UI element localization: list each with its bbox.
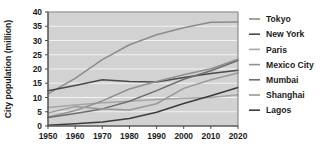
y-axis-label: City population (million) [3,20,13,118]
y-tick-label: 20 [33,64,43,74]
x-tick-label: 1950 [39,131,58,141]
x-tick-label: 2020 [229,131,248,141]
y-tick-label: 5 [37,107,42,117]
x-tick-label: 1970 [93,131,112,141]
y-tick-label: 35 [33,21,43,31]
y-tick-label: 40 [33,7,43,17]
legend-label-mumbai: Mumbai [266,75,298,85]
legend-label-paris: Paris [266,45,287,55]
legend-label-mexico-city: Mexico City [266,60,314,70]
x-tick-label: 1960 [66,131,85,141]
line-chart-figure: 0510152025303540 19501960197019801990200… [0,0,330,156]
legend-label-shanghai: Shanghai [266,90,305,100]
y-tick-label: 25 [33,50,43,60]
chart-canvas: 0510152025303540 19501960197019801990200… [0,0,330,156]
y-tick-label: 30 [33,36,43,46]
legend-label-lagos: Lagos [266,105,292,115]
y-tick-label: 10 [33,93,43,103]
x-tick-label: 2010 [202,131,221,141]
legend-label-new-york: New York [266,29,305,39]
x-tick-label: 1990 [147,131,166,141]
y-tick-label: 0 [37,121,42,131]
x-tick-label: 2000 [174,131,193,141]
legend-label-tokyo: Tokyo [266,14,291,24]
y-tick-label: 15 [33,78,43,88]
x-tick-label: 1980 [120,131,139,141]
